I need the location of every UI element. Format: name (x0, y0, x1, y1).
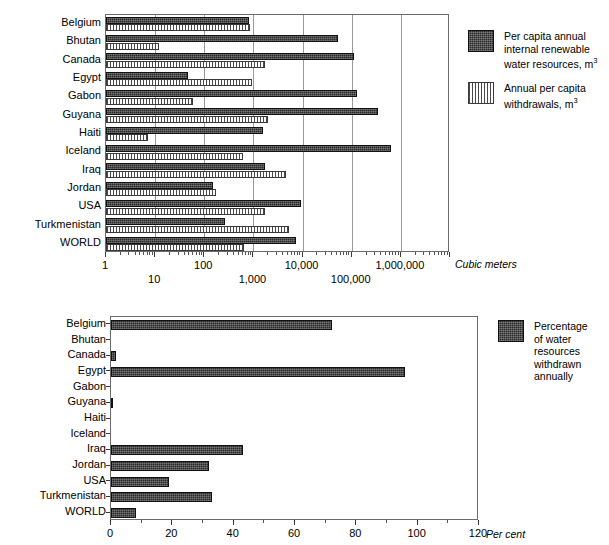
top-chart-minor-tick (192, 252, 193, 255)
top-chart-bar (106, 116, 268, 123)
bottom-chart-bar (111, 477, 169, 487)
top-chart-category-label: Gabon (68, 90, 101, 101)
top-chart-bar (106, 53, 354, 60)
top-chart-x-axis-title: Cubic meters (455, 258, 517, 270)
bottom-chart-category-tick (106, 370, 110, 371)
top-chart-bar (106, 208, 265, 215)
top-chart-legend-item: Annual per capitawithdrawals, m3 (468, 82, 586, 110)
top-chart-major-tick (449, 252, 450, 257)
top-chart-minor-tick (184, 252, 185, 255)
top-chart-minor-tick (294, 252, 295, 255)
bottom-chart-category-label: Guyana (67, 396, 106, 407)
top-chart-minor-tick (434, 252, 435, 255)
top-chart-bar (106, 98, 193, 105)
top-chart-minor-tick (346, 252, 347, 255)
bottom-chart-minor-tick (263, 520, 264, 523)
top-chart-tick-label: 100 (194, 260, 212, 271)
bottom-chart-category-tick (106, 512, 110, 513)
bottom-chart-category-label: Belgium (66, 318, 106, 329)
bottom-chart-category-tick (106, 496, 110, 497)
top-chart-category-label: Bhutan (66, 35, 101, 46)
bottom-chart-tick-label: 100 (407, 528, 425, 539)
bottom-chart-major-tick (417, 520, 418, 525)
top-chart-bar (106, 134, 148, 141)
top-chart-tick-label: 10,000 (285, 260, 319, 271)
top-chart-minor-tick (169, 252, 170, 255)
top-chart-legend: Per capita annualinternal renewablewater… (468, 30, 609, 140)
top-chart-plot-area (105, 14, 449, 252)
top-chart-category-label: Belgium (61, 17, 101, 28)
bottom-chart-category-label: USA (83, 475, 106, 486)
bottom-chart-minor-tick (386, 520, 387, 523)
top-chart-minor-tick (282, 252, 283, 255)
bottom-chart-bar (111, 492, 212, 502)
top-chart-gridline (303, 15, 304, 251)
bottom-chart-bar (111, 320, 332, 330)
bottom-chart-category-label: Haiti (84, 412, 106, 423)
top-chart-minor-tick (392, 252, 393, 255)
bottom-chart-major-tick (355, 520, 356, 525)
bottom-chart-bar (111, 508, 136, 518)
top-chart-minor-tick (242, 252, 243, 255)
top-chart-minor-tick (128, 252, 129, 255)
bottom-chart-category-label: Bhutan (71, 334, 106, 345)
top-chart-category-label: Iraq (82, 164, 101, 175)
bottom-chart-category-tick (106, 386, 110, 387)
top-chart-category-label: WORLD (60, 237, 101, 248)
bottom-chart-category-labels: BelgiumBhutanCanadaEgyptGabonGuyanaHaiti… (0, 316, 106, 520)
top-chart-gridline (352, 15, 353, 251)
bottom-chart-category-tick (106, 402, 110, 403)
top-chart-minor-tick (395, 252, 396, 255)
top-chart-minor-tick (149, 252, 150, 255)
bottom-chart-major-tick (171, 520, 172, 525)
bottom-chart-category-tick (106, 449, 110, 450)
bottom-chart-minor-tick (447, 520, 448, 523)
bottom-chart-bar (111, 461, 209, 471)
top-chart-major-tick (252, 252, 253, 257)
top-chart-bar (106, 163, 265, 170)
bottom-chart-category-label: Canada (67, 349, 106, 360)
top-chart-minor-tick (336, 252, 337, 255)
top-chart-major-tick (154, 252, 155, 257)
bottom-chart-category-label: Gabon (73, 381, 106, 392)
top-chart-minor-tick (447, 252, 448, 255)
top-chart-bar (106, 189, 216, 196)
bottom-chart-category-tick (106, 323, 110, 324)
legend-swatch-dark-icon (468, 30, 494, 52)
top-chart-legend-label: Annual per capitawithdrawals, m3 (504, 82, 586, 110)
top-chart-bar (106, 79, 252, 86)
top-chart-minor-tick (199, 252, 200, 255)
top-chart-bar (106, 17, 249, 24)
top-chart-minor-tick (415, 252, 416, 255)
top-chart-legend-label: Per capita annualinternal renewablewater… (504, 30, 597, 70)
top-chart-bar (106, 90, 357, 97)
top-chart-major-tick (302, 252, 303, 257)
bottom-chart-major-tick (110, 520, 111, 525)
top-chart-bar (106, 200, 301, 207)
bottom-chart-legend: Percentage of water resources withdrawn … (498, 320, 609, 430)
top-chart-major-tick (400, 252, 401, 257)
top-chart-minor-tick (188, 252, 189, 255)
top-chart-minor-tick (227, 252, 228, 255)
bottom-chart-major-tick (233, 520, 234, 525)
bottom-chart-category-label: Egypt (78, 365, 106, 376)
top-chart-major-tick (105, 252, 106, 257)
top-chart-minor-tick (178, 252, 179, 255)
bottom-chart-legend-item: Percentage of water resources withdrawn … (498, 320, 588, 383)
bottom-chart-tick-label: 80 (349, 528, 361, 539)
top-chart-minor-tick (233, 252, 234, 255)
top-chart-minor-tick (238, 252, 239, 255)
top-chart-minor-tick (331, 252, 332, 255)
top-chart-minor-tick (438, 252, 439, 255)
top-chart-minor-tick (139, 252, 140, 255)
top-chart-minor-tick (316, 252, 317, 255)
top-chart-minor-tick (423, 252, 424, 255)
bottom-chart-major-tick (294, 520, 295, 525)
bottom-chart-category-label: Turkmenistan (40, 490, 106, 501)
top-chart-bar (106, 127, 263, 134)
top-chart-minor-tick (287, 252, 288, 255)
top-chart-minor-tick (218, 252, 219, 255)
top-chart-minor-tick (297, 252, 298, 255)
top-chart-bar (106, 35, 338, 42)
bottom-chart-bar (111, 445, 243, 455)
